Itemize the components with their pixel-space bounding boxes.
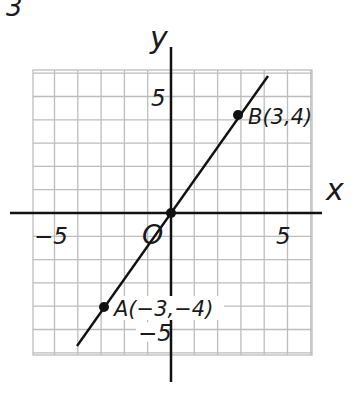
- y-tick-5: 5: [151, 85, 166, 111]
- problem-number: 3: [6, 0, 23, 22]
- point-B: [233, 110, 243, 120]
- point-A-label: A(−3,−4): [112, 297, 213, 321]
- x-axis-label: x: [325, 172, 344, 207]
- point-B-label: B(3,4): [248, 105, 312, 129]
- origin-label: O: [142, 219, 163, 250]
- x-tick-5: 5: [276, 223, 291, 249]
- y-tick-neg5: −5: [138, 320, 172, 346]
- x-tick-neg5: −5: [34, 223, 68, 249]
- coordinate-plane: 3 y x O 5 −5 −5 5 A(−3,−4) B(3,4): [0, 0, 361, 402]
- y-axis-label: y: [149, 20, 169, 55]
- point-A: [99, 302, 109, 312]
- point-O: [166, 208, 176, 218]
